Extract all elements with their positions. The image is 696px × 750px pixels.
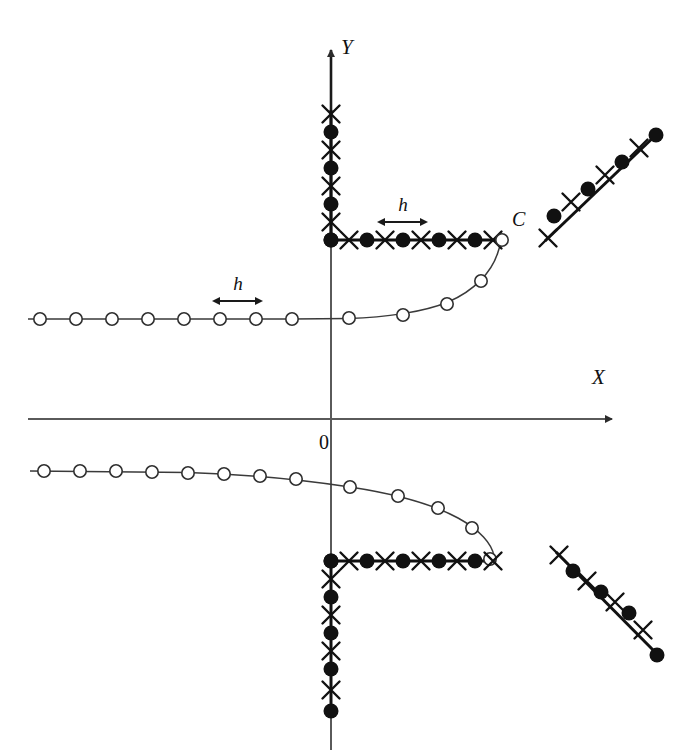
open-node-marker bbox=[250, 313, 262, 325]
filled-node-marker bbox=[547, 209, 562, 224]
open-node-marker bbox=[142, 313, 154, 325]
filled-node-marker bbox=[622, 606, 637, 621]
open-node-marker bbox=[466, 522, 478, 534]
filled-node-marker bbox=[324, 197, 339, 212]
open-node-marker bbox=[218, 468, 230, 480]
open-node-marker bbox=[392, 490, 404, 502]
open-node-marker bbox=[182, 467, 194, 479]
diagram-svg: h h Y X 0 C bbox=[0, 0, 696, 750]
filled-node-marker bbox=[360, 554, 375, 569]
filled-node-marker bbox=[396, 233, 411, 248]
origin-label: 0 bbox=[319, 431, 329, 453]
filled-node-marker bbox=[615, 155, 630, 170]
open-node-marker bbox=[214, 313, 226, 325]
open-node-marker bbox=[344, 481, 356, 493]
filled-node-marker bbox=[324, 125, 339, 140]
filled-node-marker bbox=[566, 564, 581, 579]
open-node-marker bbox=[432, 502, 444, 514]
open-node-marker bbox=[146, 466, 158, 478]
open-node-marker bbox=[496, 234, 508, 246]
spacing-label-lower: h bbox=[233, 273, 243, 294]
open-node-marker bbox=[286, 313, 298, 325]
filled-node-marker bbox=[649, 128, 664, 143]
filled-node-marker bbox=[324, 161, 339, 176]
filled-node-marker bbox=[581, 182, 596, 197]
filled-node-marker bbox=[432, 233, 447, 248]
open-node-marker bbox=[110, 465, 122, 477]
open-node-marker bbox=[290, 473, 302, 485]
filled-node-marker bbox=[432, 554, 447, 569]
curve-c-label: C bbox=[512, 208, 526, 230]
open-node-marker bbox=[34, 313, 46, 325]
filled-node-marker bbox=[324, 662, 339, 677]
filled-node-marker bbox=[324, 233, 339, 248]
open-node-marker bbox=[178, 313, 190, 325]
filled-node-marker bbox=[468, 233, 483, 248]
filled-node-marker bbox=[396, 554, 411, 569]
open-node-marker bbox=[343, 312, 355, 324]
spacing-label-upper: h bbox=[398, 194, 408, 215]
figure-canvas: h h Y X 0 C bbox=[0, 0, 696, 750]
open-node-marker bbox=[38, 465, 50, 477]
open-node-marker bbox=[475, 275, 487, 287]
filled-node-marker bbox=[324, 590, 339, 605]
filled-node-marker bbox=[650, 648, 665, 663]
filled-node-marker bbox=[594, 585, 609, 600]
open-node-marker bbox=[254, 470, 266, 482]
filled-node-marker bbox=[324, 704, 339, 719]
filled-node-marker bbox=[324, 626, 339, 641]
filled-node-marker bbox=[324, 554, 339, 569]
open-node-marker bbox=[74, 465, 86, 477]
filled-node-marker bbox=[360, 233, 375, 248]
open-node-marker bbox=[70, 313, 82, 325]
open-node-marker bbox=[397, 309, 409, 321]
filled-node-marker bbox=[468, 554, 483, 569]
open-node-marker bbox=[441, 298, 453, 310]
open-node-marker bbox=[106, 313, 118, 325]
x-axis-label: X bbox=[591, 365, 606, 389]
